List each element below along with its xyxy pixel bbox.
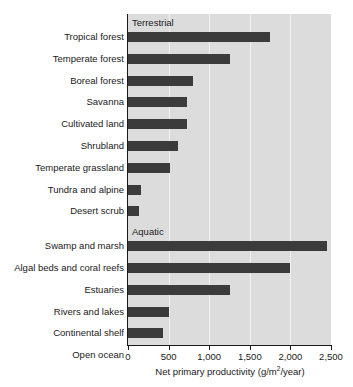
category-label: Cultivated land <box>0 119 124 129</box>
bar <box>128 241 327 251</box>
category-label: Tropical forest <box>0 32 124 42</box>
category-label: Algal beds and coral reefs <box>0 263 124 273</box>
bar <box>128 32 270 42</box>
x-axis-line <box>127 345 332 346</box>
x-tick-label: 2,000 <box>270 351 310 362</box>
bar <box>128 285 230 295</box>
x-tick-label: 500 <box>149 351 189 362</box>
bar <box>128 119 187 129</box>
bar <box>128 76 193 86</box>
x-tick-label: 1,000 <box>189 351 229 362</box>
gridline-1500 <box>250 14 251 345</box>
category-label-column: Tropical forestTemperate forestBoreal fo… <box>0 0 124 387</box>
x-axis-title-superscript: 2 <box>277 365 281 372</box>
x-tick-mark <box>169 346 170 350</box>
category-label: Temperate grassland <box>0 163 124 173</box>
x-tick-mark <box>250 346 251 350</box>
gridline-2000 <box>290 14 291 345</box>
x-tick-mark <box>290 346 291 350</box>
x-tick-mark <box>331 346 332 350</box>
bar <box>128 307 169 317</box>
category-label: Desert scrub <box>0 206 124 216</box>
bar <box>128 206 139 216</box>
category-label: Open ocean <box>0 350 124 360</box>
x-tick-label: 0 <box>108 351 148 362</box>
section-label-aquatic: Aquatic <box>132 227 164 237</box>
bar <box>128 263 290 273</box>
bar <box>128 54 230 64</box>
x-tick-label: 1,500 <box>230 351 270 362</box>
bar <box>128 185 141 195</box>
bar <box>128 328 163 338</box>
category-label: Continental shelf <box>0 328 124 338</box>
category-label: Temperate forest <box>0 54 124 64</box>
category-label: Swamp and marsh <box>0 241 124 251</box>
plot-area: Terrestrial Aquatic <box>128 14 331 345</box>
category-label: Estuaries <box>0 285 124 295</box>
x-tick-mark <box>128 346 129 350</box>
section-label-terrestrial: Terrestrial <box>132 18 174 28</box>
x-tick-mark <box>209 346 210 350</box>
chart-root: Terrestrial Aquatic Tropical forestTempe… <box>0 0 353 387</box>
x-tick-label: 2,500 <box>311 351 351 362</box>
bar <box>128 141 178 151</box>
category-label: Rivers and lakes <box>0 307 124 317</box>
category-label: Boreal forest <box>0 76 124 86</box>
category-label: Shrubland <box>0 141 124 151</box>
category-label: Savanna <box>0 97 124 107</box>
y-axis-line <box>127 14 128 346</box>
x-axis-title: Net primary productivity (g/m2/year) <box>128 366 332 378</box>
category-label: Tundra and alpine <box>0 185 124 195</box>
bar <box>128 163 170 173</box>
bar <box>128 97 187 107</box>
